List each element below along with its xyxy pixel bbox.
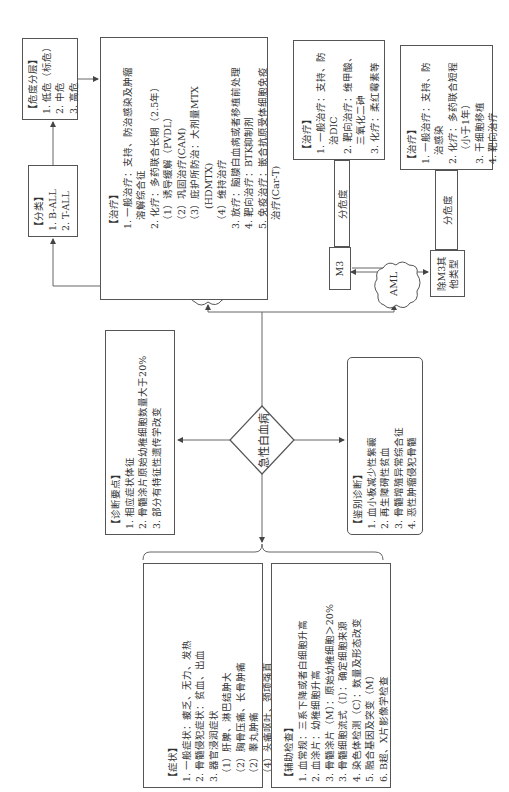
differential-item: 2. 再生障碍性贫血 bbox=[378, 363, 392, 529]
non-m3-treatment-line: 4. 靶向治疗 bbox=[486, 51, 500, 164]
all-risk-stratification-box: 危度分层 1. 低危（标危） 2. 中危 3. 高危 bbox=[22, 38, 78, 120]
all-treatment-line: （1）诱导缓解（PVDL） bbox=[161, 43, 175, 229]
non-m3-label: 他类型 bbox=[448, 259, 460, 289]
aux-exam-item: 5. 融合基因及突变（M） bbox=[363, 569, 377, 782]
symptoms-title: 症状 bbox=[166, 569, 180, 782]
non-m3-risk-bar: 分危度 bbox=[435, 170, 458, 250]
non-m3-risk-label: 分危度 bbox=[440, 195, 454, 225]
all-treatment-line: （4）维持治疗 bbox=[215, 43, 229, 229]
symptoms-box: 症状 1. 一般症状：疲乏、无力、发热 2. 骨髓侵犯症状：贫血、出血 3. 器… bbox=[143, 563, 263, 788]
m3-box: M3 bbox=[329, 247, 351, 290]
risk-title: 危度分层 bbox=[26, 44, 40, 114]
diagnosis-point: 1. 相应症状体征 bbox=[123, 336, 137, 529]
symptom-subitem: （2）胸骨压痛、长骨肿痛 bbox=[234, 569, 248, 782]
all-treatment-line: 5. 免疫治疗：嵌合抗原受体细胞免疫 bbox=[256, 43, 270, 229]
non-m3-treatment-line: 1. 一般治疗：支持、防 bbox=[419, 51, 433, 164]
all-treatment-line: 治疗(Car-T) bbox=[269, 43, 283, 229]
m3-treatment-box: 治疗 1. 一般治疗：支持、防 治DIC 2. 靶向治疗：维甲酸、 三氧化二砷 … bbox=[293, 40, 385, 160]
aux-exam-item: 3. 骨髓涂片（M）：原始幼稚细胞＞20% bbox=[323, 569, 337, 782]
all-treatment-line: （2）巩固治疗(CAM) bbox=[175, 43, 189, 229]
symptom-subitem: （2）睾丸肿痛 bbox=[247, 569, 261, 782]
m3-treatment-line: 治DIC bbox=[327, 46, 341, 154]
risk-item: 2. 中危 bbox=[53, 44, 67, 114]
m3-treatment-line: 3. 化疗：柔红霉素等 bbox=[368, 46, 382, 154]
diagnosis-points-box: 诊断要点 1. 相应症状体征 2. 骨髓涂片原始幼稚细胞数量大于20% 3. 部… bbox=[105, 330, 175, 535]
m3-risk-bar: 分危度 bbox=[334, 160, 350, 247]
aml-cloud-label: AML bbox=[388, 266, 399, 302]
symptom-item: 2. 骨髓侵犯症状：贫血、出血 bbox=[193, 569, 207, 782]
all-treatment-line: 3. 放疗：脑膜白血病或者移植前处理 bbox=[229, 43, 243, 229]
differential-title: 鉴别诊断 bbox=[351, 363, 365, 529]
diagnosis-point: 2. 骨髓涂片原始幼稚细胞数量大于20% bbox=[136, 336, 150, 529]
classification-item: 2. T-ALL bbox=[59, 171, 73, 231]
diagnosis-points-title: 诊断要点 bbox=[109, 336, 123, 529]
flowchart-canvas: 急性白血病 ALL AML 诊断要点 1. 相应症状体征 2. 骨髓涂片原始幼稚… bbox=[0, 0, 509, 792]
all-classification-box: 分类 1. B-ALL 2. T-ALL bbox=[28, 165, 78, 237]
auxiliary-exam-box: 辅助检查 1. 血常规：三系下降或者白细胞升高 2. 血涂片：幼稚细胞升高 3.… bbox=[271, 563, 391, 788]
symptom-item: 3. 器官浸润症状 bbox=[207, 569, 221, 782]
differential-item: 1. 血小板减少性紫癜 bbox=[365, 363, 379, 529]
aux-exam-item: 1. 血常规：三系下降或者白细胞升高 bbox=[296, 569, 310, 782]
m3-treatment-line: 2. 靶向治疗：维甲酸、 bbox=[341, 46, 355, 154]
non-m3-box: 除M3其 他类型 bbox=[430, 250, 465, 297]
all-treatment-line: 溶解综合征 bbox=[134, 43, 148, 229]
center-diamond-label: 急性白血病 bbox=[255, 406, 271, 474]
all-treatment-line: （3）庇护所防治：大剂量MTX bbox=[188, 43, 202, 229]
differential-item: 3. 骨髓增殖异常综合征 bbox=[392, 363, 406, 529]
m3-label: M3 bbox=[333, 261, 347, 277]
diagnosis-point: 3. 部分有特征性遗传学改变 bbox=[150, 336, 164, 529]
differential-item: 4. 恶性肿瘤侵犯骨髓 bbox=[405, 363, 419, 529]
m3-treatment-line: 1. 一般治疗：支持、防 bbox=[314, 46, 328, 154]
m3-treatment-title: 治疗 bbox=[300, 46, 314, 154]
all-treatment-box: 治疗 1. 一般治疗：支持、防治感染及肿瘤 溶解综合征 2. 化疗：多药联合长期… bbox=[100, 37, 268, 300]
all-treatment-line: 2. 化疗：多药联合长期（2.5年） bbox=[148, 43, 162, 229]
non-m3-label: 除M3其 bbox=[436, 256, 448, 292]
all-treatment-line: (HDMTX) bbox=[202, 43, 216, 229]
differential-diagnosis-box: 鉴别诊断 1. 血小板减少性紫癜 2. 再生障碍性贫血 3. 骨髓增殖异常综合征… bbox=[347, 357, 423, 535]
classification-item: 1. B-ALL bbox=[46, 171, 60, 231]
non-m3-treatment-line: （小于1年） bbox=[459, 51, 473, 164]
all-treatment-line: 4. 靶向治疗：BTK抑制剂 bbox=[242, 43, 256, 229]
m3-treatment-line: 三氧化二砷 bbox=[354, 46, 368, 154]
non-m3-treatment-line: 2. 化疗：多药联合短程 bbox=[446, 51, 460, 164]
classification-title: 分类 bbox=[32, 171, 46, 231]
risk-item: 1. 低危（标危） bbox=[40, 44, 54, 114]
aux-exam-item: 3. 骨髓细胞流式（I）：确定细胞来源 bbox=[336, 569, 350, 782]
aux-exam-item: 2. 血涂片：幼稚细胞升高 bbox=[309, 569, 323, 782]
non-m3-treatment-line: 治感染 bbox=[432, 51, 446, 164]
all-treatment-line: 1. 一般治疗：支持、防治感染及肿瘤 bbox=[121, 43, 135, 229]
all-treatment-title: 治疗 bbox=[107, 43, 121, 229]
symptom-subitem: （1）肝脾、淋巴结肿大 bbox=[220, 569, 234, 782]
m3-risk-label: 分危度 bbox=[335, 189, 349, 219]
aux-exam-item: 4. 染色体检测（C）：数量及形态改变 bbox=[350, 569, 364, 782]
aux-exam-title: 辅助检查 bbox=[282, 569, 296, 782]
non-m3-treatment-line: 3. 干细胞移植 bbox=[473, 51, 487, 164]
symptom-item: 1. 一般症状：疲乏、无力、发热 bbox=[180, 569, 194, 782]
aux-exam-item: 6. B超、X片影像学检查 bbox=[377, 569, 391, 782]
non-m3-treatment-box: 治疗 1. 一般治疗：支持、防 治感染 2. 化疗：多药联合短程 （小于1年） … bbox=[400, 45, 493, 170]
risk-item: 3. 高危 bbox=[67, 44, 81, 114]
non-m3-treatment-title: 治疗 bbox=[405, 51, 419, 164]
